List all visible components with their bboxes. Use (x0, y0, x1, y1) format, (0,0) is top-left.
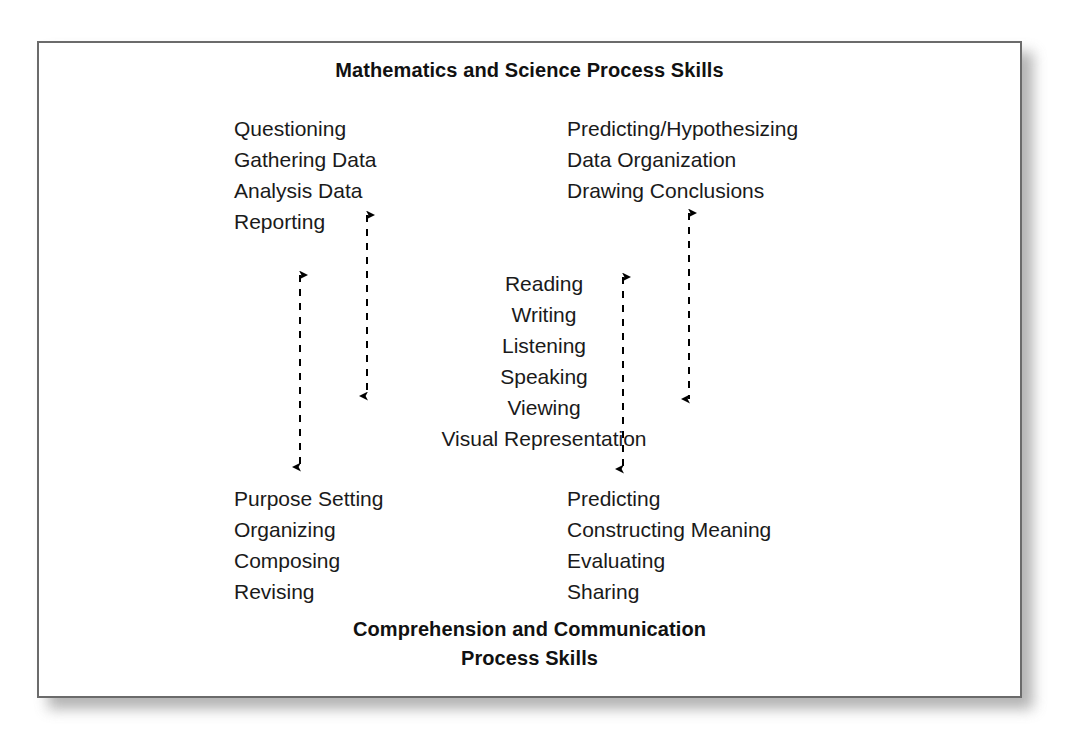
list-item: Sharing (567, 576, 771, 607)
list-item: Constructing Meaning (567, 514, 771, 545)
page-title-bottom-line1: Comprehension and Communication (39, 615, 1020, 644)
page-title-bottom: Comprehension and Communication Process … (39, 615, 1020, 673)
list-item: Revising (234, 576, 383, 607)
list-item: Speaking (379, 361, 709, 392)
list-item: Organizing (234, 514, 383, 545)
list-item: Viewing (379, 392, 709, 423)
language-arts-skills-list: Reading Writing Listening Speaking Viewi… (379, 268, 709, 454)
page-title-top: Mathematics and Science Process Skills (39, 59, 1020, 82)
list-item: Predicting/Hypothesizing (567, 113, 798, 144)
list-item: Data Organization (567, 144, 798, 175)
communication-skills-list: Predicting Constructing Meaning Evaluati… (567, 483, 771, 607)
list-item: Purpose Setting (234, 483, 383, 514)
list-item: Evaluating (567, 545, 771, 576)
page-title-bottom-line2: Process Skills (39, 644, 1020, 673)
list-item: Analysis Data (234, 175, 376, 206)
list-item: Listening (379, 330, 709, 361)
science-inquiry-skills-list: Predicting/Hypothesizing Data Organizati… (567, 113, 798, 206)
list-item: Reporting (234, 206, 376, 237)
comprehension-skills-list: Purpose Setting Organizing Composing Rev… (234, 483, 383, 607)
list-item: Drawing Conclusions (567, 175, 798, 206)
math-science-skills-list: Questioning Gathering Data Analysis Data… (234, 113, 376, 237)
list-item: Composing (234, 545, 383, 576)
diagram-canvas: Mathematics and Science Process Skills (0, 0, 1072, 738)
list-item: Gathering Data (234, 144, 376, 175)
list-item: Writing (379, 299, 709, 330)
diagram-frame: Mathematics and Science Process Skills (37, 41, 1022, 698)
list-item: Reading (379, 268, 709, 299)
list-item: Predicting (567, 483, 771, 514)
list-item: Visual Representation (379, 423, 709, 454)
list-item: Questioning (234, 113, 376, 144)
